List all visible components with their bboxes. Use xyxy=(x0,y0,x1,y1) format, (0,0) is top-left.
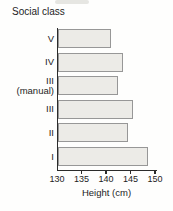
x-tick-label: 130 xyxy=(45,174,69,184)
x-tick-label: 140 xyxy=(94,174,118,184)
bar xyxy=(58,123,128,142)
bar xyxy=(58,147,148,166)
category-label: IV xyxy=(0,53,54,72)
category-label: III xyxy=(0,100,54,119)
x-axis-title: Height (cm) xyxy=(57,187,156,198)
x-tick-label: 135 xyxy=(70,174,94,184)
bar xyxy=(58,100,133,119)
category-label: V xyxy=(0,29,54,48)
x-tick-label: 145 xyxy=(119,174,143,184)
bar xyxy=(58,53,123,72)
category-label: I xyxy=(0,147,54,166)
bar xyxy=(58,76,118,95)
bar xyxy=(58,29,111,48)
category-label: III(manual) xyxy=(0,76,54,95)
chart-title: Social class xyxy=(12,6,65,17)
scan-artifact xyxy=(55,0,89,4)
social-class-height-chart: Social class VIVIII(manual)IIIIII1301351… xyxy=(0,0,173,211)
x-tick-label: 150 xyxy=(143,174,167,184)
category-label: II xyxy=(0,123,54,142)
